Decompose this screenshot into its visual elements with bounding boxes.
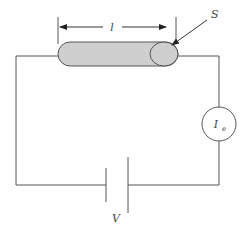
rod — [58, 42, 178, 66]
end-face-ellipse — [150, 42, 178, 66]
ammeter-label: I — [213, 118, 219, 131]
ammeter: I e — [202, 107, 236, 141]
surface-pointer: S — [172, 8, 219, 45]
circuit-wires — [16, 56, 219, 185]
length-label: l — [110, 21, 114, 34]
ammeter-subscript: e — [222, 125, 226, 133]
voltage-label: V — [112, 212, 121, 225]
surface-label: S — [211, 8, 219, 21]
length-dimension: l — [58, 17, 176, 44]
circuit-diagram: l S I e V — [0, 0, 246, 235]
battery: V — [106, 157, 128, 225]
